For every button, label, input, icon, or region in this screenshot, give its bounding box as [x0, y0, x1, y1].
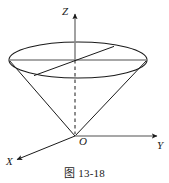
y-axis-label: Y — [157, 140, 163, 151]
figure-caption: 图 13-18 — [0, 164, 169, 180]
z-axis-label: Z — [62, 6, 68, 17]
x-axis-line — [17, 136, 75, 160]
rim-diagonal-chord — [34, 46, 114, 75]
cone-side-left — [9, 60, 75, 136]
figure-container: Z Y X O 图 13-18 — [0, 0, 169, 183]
cone-coordinate-diagram — [0, 0, 169, 183]
origin-label: O — [79, 136, 87, 147]
cone-side-right — [75, 60, 147, 136]
